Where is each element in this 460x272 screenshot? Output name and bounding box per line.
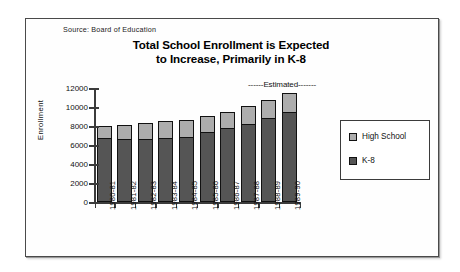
x-axis-tick-label: 1980-81 (108, 181, 117, 210)
x-axis-tick-label: 1981-82 (129, 181, 138, 210)
legend-label-high-school: High School (362, 132, 406, 141)
y-axis-tick-mark (89, 126, 99, 128)
bar-segment-high-school (201, 117, 214, 134)
bar-segment-high-school (98, 127, 111, 139)
y-axis-tick-mark (89, 145, 99, 147)
y-axis-tick-mark (89, 164, 99, 166)
x-axis-tick-label: 1986-87 (232, 181, 241, 210)
y-axis-tick-label: 0 (52, 198, 88, 207)
legend-label-k8: K-8 (362, 156, 375, 165)
x-axis-tick-label: 1982-83 (149, 181, 158, 210)
y-axis-tick-label: 12000 (52, 84, 88, 93)
x-axis-tick-label: 1988-89 (273, 181, 282, 210)
y-axis-title: Enrollment (36, 100, 45, 140)
y-axis-tick-labels: 020004000600080001000012000 (48, 0, 88, 272)
y-axis-tick-label: 4000 (52, 160, 88, 169)
bar-segment-high-school (262, 101, 275, 120)
y-axis-tick-label: 6000 (52, 141, 88, 150)
x-axis-tick-label: 1987-88 (252, 181, 261, 210)
legend-swatch-k8-icon (349, 157, 357, 165)
bar-segment-high-school (221, 113, 234, 129)
x-axis-tick-mark (95, 202, 97, 208)
y-axis-tick-label: 2000 (52, 179, 88, 188)
y-axis-tick-label: 8000 (52, 122, 88, 131)
bar-segment-high-school (139, 124, 152, 140)
bar-segment-high-school (159, 122, 172, 139)
x-axis-tick-label: 1989-90 (293, 181, 302, 210)
y-axis-tick-mark (89, 88, 99, 90)
legend-swatch-high-school-icon (349, 133, 357, 141)
bar-segment-high-school (180, 121, 193, 138)
chart-legend: High School K-8 (340, 120, 430, 180)
bar-segment-high-school (242, 107, 255, 126)
x-axis-tick-label: 1985-86 (211, 181, 220, 210)
bar-segment-high-school (118, 126, 131, 140)
bar-segment-high-school (283, 94, 296, 113)
x-axis-tick-label: 1984-85 (190, 181, 199, 210)
y-axis-tick-label: 10000 (52, 103, 88, 112)
y-axis-tick-mark (89, 183, 99, 185)
estimated-annotation: ------Estimated------- (248, 80, 316, 89)
x-axis-tick-label: 1983-84 (170, 181, 179, 210)
y-axis-tick-mark (89, 107, 99, 109)
